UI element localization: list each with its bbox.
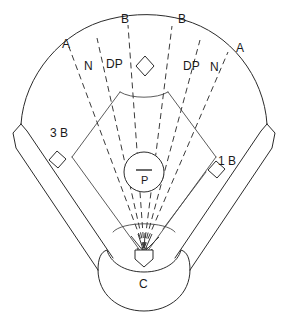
home-plate <box>135 250 153 267</box>
third-base-bag <box>49 151 66 168</box>
zone-divider-a-left <box>69 47 144 248</box>
label-n-right: N <box>210 61 219 73</box>
label-a-right: A <box>236 42 244 54</box>
infield-baseline-second-left <box>72 92 120 157</box>
label-first-base: 1 B <box>218 155 236 167</box>
field-drawing <box>0 0 290 320</box>
label-third-base: 3 B <box>50 127 68 139</box>
label-pitcher: P <box>141 175 148 186</box>
baseball-field-diagram: B B A A N DP DP N 3 B 1 B P C <box>0 0 290 320</box>
label-b-right: B <box>178 13 186 25</box>
zone-divider-a-right <box>144 52 228 248</box>
pitchers-mound <box>124 152 164 192</box>
left-foul-territory-boundary <box>13 124 98 270</box>
left-foul-strip-inner <box>21 124 113 258</box>
right-foul-territory-boundary <box>190 124 275 270</box>
label-dp-left: DP <box>106 58 123 70</box>
first-base-running-lane <box>163 172 206 229</box>
infield-baseline-second-right <box>168 92 216 157</box>
label-a-left: A <box>62 38 70 50</box>
label-b-left: B <box>121 13 129 25</box>
second-base-bag <box>136 56 154 76</box>
label-catcher: C <box>139 278 148 290</box>
infield-grass-arc-second <box>120 92 168 97</box>
zone-divider-dp-left <box>128 25 144 248</box>
label-n-left: N <box>84 60 93 72</box>
label-dp-right: DP <box>183 60 200 72</box>
